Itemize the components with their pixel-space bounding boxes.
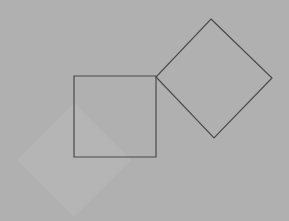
canvas-background: [0, 0, 289, 221]
figure-canvas: [0, 0, 289, 221]
geometric-figure: [0, 0, 289, 221]
left-margin-band: [0, 0, 17, 221]
